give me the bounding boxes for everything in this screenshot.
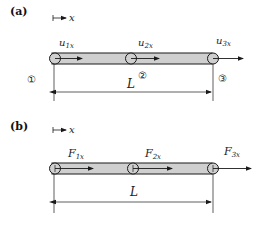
f3x-label: F3x [223,145,240,159]
length-dimension: L [54,174,213,213]
x-axis-indicator: x [53,12,75,23]
panel-a-label: (a) [10,5,28,18]
node-1-number: ① [27,74,36,85]
bar-element-diagram: (a) x u1x u2x u3x ① ② ③ [0,0,262,230]
f1x-label: F1x [67,147,84,161]
panel-a: (a) x u1x u2x u3x ① ② ③ [10,5,243,101]
u3x-label: u3x [216,35,231,48]
u1x-label: u1x [59,37,74,50]
u2x-label: u2x [138,37,153,50]
length-label: L [129,185,138,199]
panel-b: (b) x F1x F2x F3x [10,120,251,213]
node-3-number: ③ [218,73,227,84]
panel-b-label: (b) [10,120,28,133]
x-axis-indicator: x [53,124,75,135]
length-dimension: L [54,64,213,101]
x-axis-label: x [69,12,75,23]
f2x-label: F2x [144,147,161,161]
length-label: L [126,77,135,91]
x-axis-label: x [69,124,75,135]
node-2-number: ② [138,70,147,81]
